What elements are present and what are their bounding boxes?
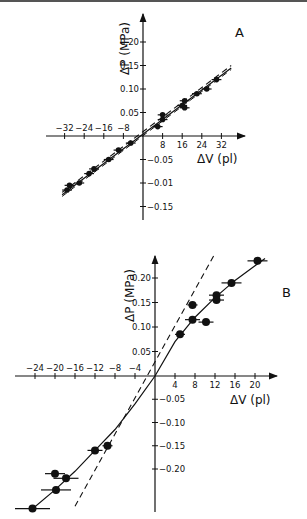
y-tick-label: −0.05: [147, 155, 173, 165]
panel-b-y-axis-title: ΔP (MPa): [123, 269, 137, 322]
y-tick-label: −0.01: [147, 178, 173, 188]
data-point: [67, 183, 73, 189]
data-point: [228, 279, 236, 287]
data-point: [155, 124, 161, 130]
y-tick-label: 0.05: [132, 347, 151, 357]
data-point: [214, 77, 220, 83]
x-tick-label: −24: [26, 363, 44, 373]
data-point: [182, 105, 188, 111]
panel-b-label: B: [282, 285, 291, 300]
y-tick-label: 0.10: [120, 84, 139, 94]
y-tick-label: 0.10: [132, 322, 151, 332]
data-point: [189, 301, 197, 309]
x-tick-label: −20: [46, 363, 64, 373]
data-point: [52, 486, 60, 494]
x-tick-label: 8: [192, 380, 197, 390]
data-point: [194, 91, 200, 97]
y-tick-label: 0.05: [120, 108, 139, 118]
data-point: [182, 98, 188, 104]
x-tick-label: −24: [75, 123, 93, 133]
x-tick-label: 20: [250, 380, 261, 390]
data-point: [176, 330, 184, 338]
data-point: [86, 171, 92, 177]
x-tick-label: 8: [160, 140, 165, 150]
data-point: [116, 147, 122, 153]
x-tick-label: 16: [177, 140, 188, 150]
y-tick-label: −0.05: [159, 394, 185, 404]
data-point: [160, 112, 166, 118]
x-tick-label: −12: [86, 363, 104, 373]
data-point: [91, 446, 99, 454]
x-tick-label: −8: [109, 363, 122, 373]
data-point: [202, 318, 210, 326]
x-tick-label: −4: [129, 363, 142, 373]
data-point: [204, 86, 210, 92]
figure: −32−24−16−88162432 0.200.150.100.05−0.05…: [0, 0, 307, 519]
x-tick-label: −16: [95, 123, 113, 133]
data-point: [62, 474, 70, 482]
x-tick-label: 4: [172, 380, 177, 390]
y-tick-label: −0.15: [159, 441, 185, 451]
data-point: [104, 442, 112, 450]
data-point: [213, 296, 221, 304]
x-tick-label: −8: [117, 123, 130, 133]
data-point: [77, 180, 83, 186]
y-tick-label: −0.20: [159, 464, 185, 474]
data-point: [254, 257, 262, 265]
x-tick-label: 32: [216, 140, 227, 150]
panel-a-y-axis-title: ΔP (MPa): [118, 22, 132, 75]
x-tick-label: 12: [210, 380, 221, 390]
panel-a-x-axis-title: ΔV (pl): [197, 152, 238, 166]
data-point: [51, 470, 59, 478]
x-tick-label: −16: [66, 363, 84, 373]
data-point: [189, 316, 197, 324]
panel-b: −24−20−16−12−8−448121620 0.200.150.100.0…: [15, 254, 291, 513]
data-point: [29, 505, 37, 513]
x-tick-label: 16: [230, 380, 241, 390]
data-point: [106, 157, 112, 163]
y-tick-label: −0.15: [147, 202, 173, 212]
data-point: [128, 140, 134, 146]
data-point: [91, 166, 97, 172]
panel-b-x-axis-title: ΔV (pl): [230, 393, 271, 407]
panel-a: −32−24−16−88162432 0.200.150.100.05−0.05…: [46, 14, 245, 220]
x-tick-label: 24: [196, 140, 207, 150]
panel-b-y-ticks: 0.200.150.100.05−0.05−0.10−0.15−0.20: [132, 273, 185, 474]
panel-a-label: A: [235, 25, 244, 40]
y-tick-label: −0.10: [159, 418, 185, 428]
x-tick-label: −32: [56, 123, 74, 133]
